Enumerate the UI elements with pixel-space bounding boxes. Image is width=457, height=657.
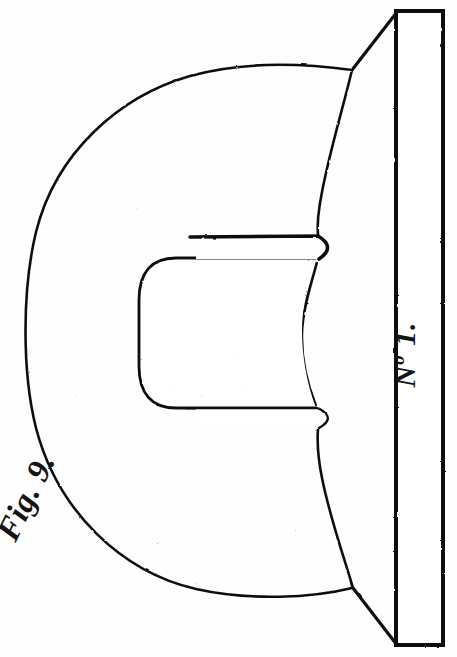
number-label: No 1. <box>387 322 422 388</box>
bottom-diagonal-connector <box>353 588 397 645</box>
number-label-superscript: o <box>387 355 408 365</box>
lower-groove <box>186 408 328 428</box>
top-diagonal-connector <box>352 12 397 70</box>
number-label-value: 1. <box>388 322 421 347</box>
upper-groove <box>186 236 328 259</box>
number-label-prefix: N <box>388 365 421 388</box>
engraving-plate: Fig. 9. No 1. <box>0 0 457 657</box>
